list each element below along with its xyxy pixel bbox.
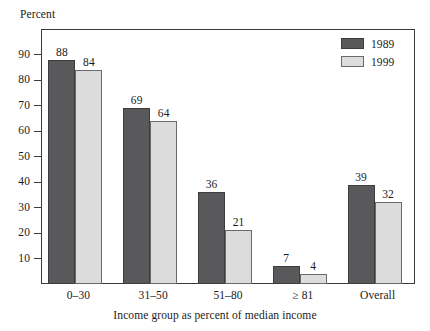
y-axis-tick-label: 80 bbox=[0, 74, 30, 86]
y-axis-title: Percent bbox=[20, 7, 55, 21]
y-axis-tick-label-wrap: 60 bbox=[0, 125, 30, 137]
y-axis-tick-label-wrap: 80 bbox=[0, 74, 30, 86]
bar-030-1989 bbox=[48, 60, 75, 284]
legend-item-label: 1989 bbox=[371, 38, 394, 50]
y-axis-tick-label: 10 bbox=[0, 253, 30, 265]
y-axis-tick-label-wrap: 20 bbox=[0, 227, 30, 239]
y-axis-tick bbox=[34, 207, 41, 208]
y-axis-tick bbox=[34, 233, 41, 234]
legend: 19891999 bbox=[341, 36, 394, 72]
bar-value-label: 39 bbox=[338, 171, 385, 183]
bar-030-1999 bbox=[75, 70, 102, 284]
bar-value-label: 64 bbox=[140, 107, 187, 119]
y-axis-tick-label-wrap: 10 bbox=[0, 253, 30, 265]
bar-value-label: 84 bbox=[65, 56, 112, 68]
legend-item-1999: 1999 bbox=[341, 54, 394, 69]
y-axis-tick-label: 30 bbox=[0, 202, 30, 214]
dark-gray-swatch bbox=[341, 38, 364, 49]
bar-value-label: 69 bbox=[113, 94, 160, 106]
legend-item-1989: 1989 bbox=[341, 36, 394, 51]
x-axis-category-label: Overall bbox=[333, 289, 423, 302]
y-axis-tick bbox=[34, 182, 41, 183]
y-axis-tick-label: 90 bbox=[0, 49, 30, 61]
y-axis-tick bbox=[34, 80, 41, 81]
bar-3150-1989 bbox=[123, 108, 150, 284]
y-axis-tick bbox=[34, 258, 41, 259]
y-axis-tick bbox=[34, 105, 41, 106]
y-axis-tick-label-wrap: 40 bbox=[0, 176, 30, 188]
y-axis-tick-label: 70 bbox=[0, 100, 30, 112]
legend-item-label: 1999 bbox=[371, 56, 394, 68]
light-gray-swatch bbox=[341, 56, 364, 67]
y-axis-tick-label-wrap: 30 bbox=[0, 202, 30, 214]
y-axis-tick-label-wrap: 50 bbox=[0, 151, 30, 163]
y-axis-tick bbox=[34, 156, 41, 157]
bar-value-label: 32 bbox=[365, 188, 412, 200]
y-axis-tick-label: 60 bbox=[0, 125, 30, 137]
bar-5180-1989 bbox=[198, 192, 225, 284]
y-axis-tick bbox=[34, 131, 41, 132]
bar-81-1999 bbox=[300, 274, 327, 284]
bar-value-label: 21 bbox=[215, 216, 262, 228]
bar-5180-1999 bbox=[225, 230, 252, 284]
y-axis-tick-label: 50 bbox=[0, 151, 30, 163]
bar-chart: Percent 102030405060708090 8884696436217… bbox=[0, 0, 430, 331]
y-axis-tick-label: 40 bbox=[0, 176, 30, 188]
bar-value-label: 4 bbox=[290, 260, 337, 272]
y-axis-tick-label-wrap: 90 bbox=[0, 49, 30, 61]
y-axis-tick-label: 20 bbox=[0, 227, 30, 239]
x-axis-title: Income group as percent of median income bbox=[0, 308, 430, 322]
bar-Overall-1999 bbox=[375, 202, 402, 284]
y-axis-tick-label-wrap: 70 bbox=[0, 100, 30, 112]
bar-value-label: 36 bbox=[188, 178, 235, 190]
bar-3150-1999 bbox=[150, 121, 177, 284]
